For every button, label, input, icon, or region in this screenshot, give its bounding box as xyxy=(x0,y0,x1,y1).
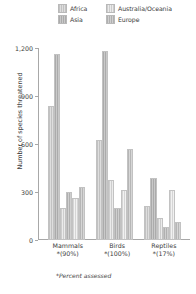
y-axis-title: Number of species threatened xyxy=(16,41,24,201)
bar-chart: Africa Australia/Oceania Asia Europe Num… xyxy=(0,0,196,294)
chart-legend: Africa Australia/Oceania Asia Europe xyxy=(58,3,196,25)
x-axis-label-name: Mammals xyxy=(53,242,83,249)
bar-groups xyxy=(38,48,190,240)
chart-footnote: *Percent assessed xyxy=(56,272,111,279)
x-axis-label-percent: *(17%) xyxy=(153,250,175,257)
legend-item-asia: Asia xyxy=(58,15,106,24)
x-axis-label-name: Birds xyxy=(109,242,125,249)
x-axis-labels: Mammals*(90%)Birds*(100%)Reptiles*(17%) xyxy=(38,242,190,266)
y-axis-tick-label: 0 xyxy=(29,237,33,244)
legend-label-asia: Asia xyxy=(70,16,83,23)
x-axis-label-percent: *(90%) xyxy=(57,250,79,257)
legend-label-africa: Africa xyxy=(70,5,87,12)
legend-swatch-africa-icon xyxy=(58,4,67,13)
y-axis-tick-label: 600 xyxy=(21,141,33,148)
legend-swatch-australia-oceania-icon xyxy=(106,4,115,13)
bar xyxy=(127,149,133,240)
x-axis-label-birds: Birds*(100%) xyxy=(104,242,130,266)
bar-group-reptiles xyxy=(144,48,181,240)
bar-group-birds xyxy=(96,48,133,240)
legend-item-australia-oceania: Australia/Oceania xyxy=(106,4,196,13)
y-axis-tick-label: 300 xyxy=(21,189,33,196)
legend-item-europe: Europe xyxy=(106,15,196,24)
bar xyxy=(79,187,85,240)
x-axis-label-name: Reptiles xyxy=(151,242,176,249)
legend-item-africa: Africa xyxy=(58,4,106,13)
x-axis-label-mammals: Mammals*(90%) xyxy=(53,242,83,266)
y-axis-tick xyxy=(35,240,38,241)
bar xyxy=(175,222,181,240)
y-axis-tick-label: 1,200 xyxy=(15,45,33,52)
legend-label-europe: Europe xyxy=(118,16,139,23)
bar-group-mammals xyxy=(48,48,85,240)
legend-swatch-asia-icon xyxy=(58,15,67,24)
x-axis-label-percent: *(100%) xyxy=(104,250,130,257)
plot-area: 1,2009006003000 xyxy=(38,48,190,240)
legend-swatch-europe-icon xyxy=(106,15,115,24)
y-axis-tick-label: 900 xyxy=(21,93,33,100)
legend-label-australia-oceania: Australia/Oceania xyxy=(118,5,172,12)
x-axis-label-reptiles: Reptiles*(17%) xyxy=(151,242,176,266)
